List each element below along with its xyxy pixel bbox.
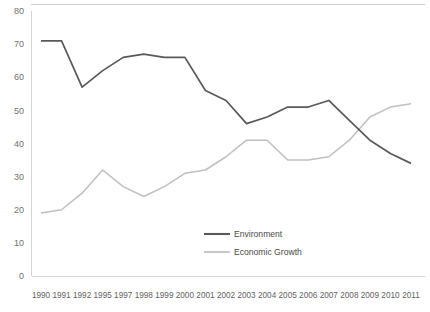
x-axis-tick-label: 2007 (320, 291, 339, 300)
x-axis-tick-label: 2010 (381, 291, 400, 300)
x-axis-tick-label: 1991 (52, 291, 71, 300)
y-axis-tick-label: 70 (14, 39, 24, 49)
x-axis-tick-label: 2011 (402, 291, 420, 300)
x-axis-tick-label: 2008 (340, 291, 359, 300)
x-axis-tick-label: 1997 (114, 291, 133, 300)
x-axis-tick-label: 2003 (237, 291, 256, 300)
x-axis-tick-label: 1999 (155, 291, 174, 300)
line-chart: 0102030405060708019901991199219951997199… (0, 0, 430, 312)
series-line-environment (41, 41, 411, 164)
x-axis-tick-label: 1990 (32, 291, 51, 300)
y-axis-tick-label: 80 (14, 6, 24, 16)
x-axis-tick-label: 2006 (299, 291, 318, 300)
y-axis-tick-label: 60 (14, 72, 24, 82)
y-axis-tick-label: 20 (14, 205, 24, 215)
chart-canvas: 0102030405060708019901991199219951997199… (0, 0, 430, 312)
x-axis-tick-label: 1992 (73, 291, 92, 300)
x-axis-tick-label: 2002 (217, 291, 236, 300)
y-axis-tick-label: 0 (19, 271, 24, 281)
x-axis-tick-label: 2004 (258, 291, 277, 300)
x-axis-tick-label: 1995 (94, 291, 113, 300)
x-axis-tick-label: 2001 (196, 291, 215, 300)
x-axis-tick-label: 2009 (361, 291, 380, 300)
x-axis-tick-label: 2005 (279, 291, 298, 300)
y-axis-tick-label: 10 (14, 238, 24, 248)
legend-label: Economic Growth (234, 247, 302, 257)
x-axis-tick-label: 1998 (135, 291, 154, 300)
x-axis-tick-label: 2000 (176, 291, 195, 300)
y-axis-tick-label: 50 (14, 106, 24, 116)
series-line-economic-growth (41, 104, 411, 213)
legend-label: Environment (234, 229, 283, 239)
y-axis-tick-label: 30 (14, 172, 24, 182)
y-axis-tick-label: 40 (14, 139, 24, 149)
